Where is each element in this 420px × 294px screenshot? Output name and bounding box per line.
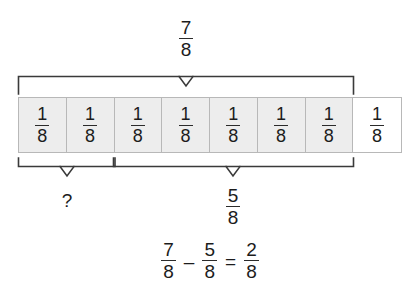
minus-operator: – <box>183 252 196 271</box>
cell-denominator: 8 <box>35 126 49 145</box>
equals-operator: = <box>224 252 237 271</box>
bar-cell: 1 8 <box>115 98 163 152</box>
fraction-denominator: 8 <box>244 261 259 281</box>
bottom-bracket-known-part <box>111 157 356 179</box>
cell-denominator: 8 <box>83 126 97 145</box>
fraction-numerator: 5 <box>202 240 217 260</box>
bar-cell: 1 8 <box>258 98 306 152</box>
fraction-numerator: 2 <box>244 240 259 260</box>
fraction-numerator: 7 <box>161 240 176 260</box>
cell-numerator: 1 <box>83 105 97 124</box>
cell-fraction: 1 8 <box>370 105 384 145</box>
cell-denominator: 8 <box>226 126 240 145</box>
fraction-numerator: 5 <box>226 186 241 206</box>
cell-numerator: 1 <box>35 105 49 124</box>
cell-fraction: 1 8 <box>322 105 336 145</box>
fraction-denominator: 8 <box>179 39 194 59</box>
known-part-label: 5 8 <box>215 186 251 228</box>
fraction-five-eighths: 5 8 <box>226 186 241 228</box>
fraction-denominator: 8 <box>226 207 241 227</box>
cell-fraction: 1 8 <box>35 105 49 145</box>
cell-numerator: 1 <box>226 105 240 124</box>
bottom-bracket-unknown <box>16 157 118 179</box>
cell-numerator: 1 <box>274 105 288 124</box>
bar-cell: 1 8 <box>162 98 210 152</box>
fraction-bar-model-diagram: 7 8 1 8 1 8 1 <box>0 0 420 294</box>
unknown-part-label: ? <box>50 190 84 212</box>
equation-difference: 2 8 <box>244 240 259 282</box>
fraction-denominator: 8 <box>202 261 217 281</box>
whole-amount-label: 7 8 <box>168 18 204 60</box>
cell-denominator: 8 <box>370 126 384 145</box>
cell-numerator: 1 <box>370 105 384 124</box>
cell-fraction: 1 8 <box>179 105 193 145</box>
bar-cell: 1 8 <box>19 98 67 152</box>
equation-row: 7 8 – 5 8 = 2 8 <box>0 240 420 282</box>
cell-fraction: 1 8 <box>274 105 288 145</box>
cell-fraction: 1 8 <box>131 105 145 145</box>
fraction-denominator: 8 <box>161 261 176 281</box>
fraction-numerator: 7 <box>179 18 194 38</box>
bar-cell: 1 8 <box>67 98 115 152</box>
cell-denominator: 8 <box>274 126 288 145</box>
fraction-bar-strip: 1 8 1 8 1 8 1 8 <box>18 97 402 153</box>
cell-numerator: 1 <box>322 105 336 124</box>
equation-subtrahend: 5 8 <box>202 240 217 282</box>
fraction-seven-eighths: 7 8 <box>179 18 194 60</box>
cell-denominator: 8 <box>131 126 145 145</box>
cell-numerator: 1 <box>131 105 145 124</box>
cell-numerator: 1 <box>179 105 193 124</box>
bar-cell: 1 8 <box>306 98 354 152</box>
cell-denominator: 8 <box>179 126 193 145</box>
top-bracket-whole <box>16 73 356 95</box>
bar-cell: 1 8 <box>353 98 401 152</box>
cell-fraction: 1 8 <box>83 105 97 145</box>
cell-denominator: 8 <box>322 126 336 145</box>
bar-cell: 1 8 <box>210 98 258 152</box>
cell-fraction: 1 8 <box>226 105 240 145</box>
equation-minuend: 7 8 <box>161 240 176 282</box>
